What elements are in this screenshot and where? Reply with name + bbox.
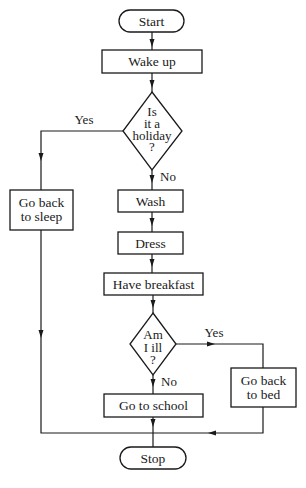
- node-wash: Wash: [118, 190, 183, 212]
- arrow-down-icon: [151, 419, 156, 427]
- flowchart: Start Wake up Is it a holiday ? Yes No G…: [0, 0, 306, 488]
- holiday-yes-label: Yes: [75, 112, 94, 127]
- arrow-down-icon: [150, 175, 155, 183]
- arrow-down-icon: [151, 379, 156, 387]
- arrow-down-icon: [150, 218, 155, 226]
- node-go-back-to-bed: Go back to bed: [231, 368, 296, 407]
- node-go-to-school: Go to school: [104, 394, 203, 417]
- edge-holiday-yes-sleep: [41, 131, 123, 190]
- node-wake-up: Wake up: [102, 50, 202, 73]
- node-holiday-decision: Is it a holiday ?: [123, 92, 182, 170]
- node-dress-label: Dress: [135, 236, 166, 251]
- ill-no-label: No: [161, 374, 177, 389]
- bed-line-1: Go back: [241, 373, 287, 388]
- node-have-breakfast: Have breakfast: [104, 273, 203, 295]
- node-start-label: Start: [139, 14, 165, 29]
- node-breakfast-label: Have breakfast: [113, 277, 195, 292]
- arrow-down-icon: [150, 259, 155, 267]
- sleep-line-1: Go back: [19, 195, 65, 210]
- holiday-line-4: ?: [149, 139, 155, 154]
- arrow-down-icon: [150, 80, 155, 88]
- sleep-line-2: to sleep: [21, 209, 63, 224]
- holiday-no-label: No: [160, 169, 176, 184]
- node-stop: Stop: [120, 447, 186, 469]
- arrow-right-icon: [207, 342, 215, 347]
- node-stop-label: Stop: [141, 451, 166, 466]
- node-dress: Dress: [118, 232, 183, 254]
- arrow-down-icon: [150, 39, 155, 47]
- node-go-back-to-sleep: Go back to sleep: [10, 190, 73, 230]
- node-wash-label: Wash: [136, 194, 166, 209]
- bed-line-2: to bed: [247, 387, 281, 402]
- arrow-down-icon: [151, 300, 156, 308]
- node-school-label: Go to school: [119, 398, 188, 413]
- node-start: Start: [119, 10, 184, 32]
- arrow-left-icon: [208, 431, 216, 436]
- node-wake-up-label: Wake up: [128, 54, 176, 69]
- node-ill-decision: Am I ill ?: [130, 313, 176, 375]
- edge-ill-yes-bed: [176, 344, 263, 368]
- arrow-down-icon: [39, 330, 44, 338]
- ill-line-3: ?: [150, 352, 156, 367]
- arrow-down-icon: [39, 153, 44, 161]
- ill-yes-label: Yes: [205, 325, 224, 340]
